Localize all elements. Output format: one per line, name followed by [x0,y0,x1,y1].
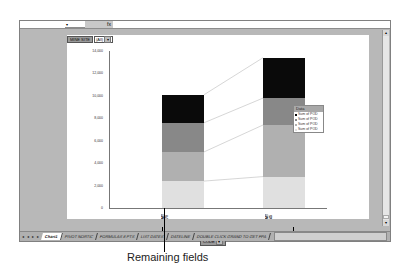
category-label: MT 45 [265,213,273,219]
horizontal-scrollbar[interactable] [274,232,387,241]
y-tick-label: 4,000 [81,161,103,165]
pivot-chart-area[interactable]: MINE SITE (All) ▾ 02,0004,0006,0008,0001… [67,35,369,219]
x-axis [109,208,327,209]
chevron-down-icon[interactable]: ▾ [104,36,111,43]
y-tick-label: 8,000 [81,116,103,120]
sheet-tab[interactable]: FORMULAS 8 PTS [96,233,139,240]
y-tick-label: 12,000 [81,71,103,75]
y-tick-label: 2,000 [81,184,103,188]
sheet-tab[interactable]: DATELINE [167,233,195,240]
sheet-tab[interactable]: DOUBLE CLICK GRAND TO GET FPA [193,233,271,240]
tab-navigation: ◂ ◂ ▸ ▸ [20,234,42,239]
scroll-thumb[interactable] [383,215,389,219]
y-axis [109,51,110,208]
legend-swatch-icon [295,124,297,126]
y-tick-label: 14,000 [81,49,103,53]
excel-window: ▾ fx MINE SITE (All) ▾ 02,0004,0006,0008… [19,20,391,242]
legend-label: Sum of POD [298,127,318,132]
first-sheet-icon[interactable]: ◂ [22,234,24,239]
insert-function-button[interactable]: fx [85,21,113,28]
name-box-dropdown-icon[interactable]: ▾ [64,22,70,27]
bar-segment[interactable] [162,152,204,181]
name-box[interactable] [20,21,65,28]
sheet-tab-bar: ◂ ◂ ▸ ▸ Chart1PIVOT NORTICFORMULAS 8 PTS… [20,231,390,241]
vertical-scrollbar[interactable]: ▴ ▾ [382,30,389,226]
sheet-tab[interactable]: PIVOT NORTIC [61,233,98,240]
callout-line [164,208,165,252]
bar-segment[interactable] [162,181,204,208]
formula-input[interactable] [113,21,390,28]
prev-sheet-icon[interactable]: ◂ [27,234,29,239]
page-field: MINE SITE (All) ▾ [67,36,113,43]
y-tick-label: 6,000 [81,139,103,143]
y-tick-label: 0 [81,206,103,210]
y-tick-label: 10,000 [81,94,103,98]
legend-swatch-icon [295,129,297,131]
category-label: MT 70 [161,213,169,219]
page-field-label[interactable]: MINE SITE [67,36,93,43]
page-field-dropdown[interactable]: (All) ▾ [94,36,113,43]
next-sheet-icon[interactable]: ▸ [32,234,34,239]
bar-segment[interactable] [263,58,305,98]
scroll-down-icon[interactable]: ▾ [383,220,389,226]
scroll-up-icon[interactable]: ▴ [383,30,389,36]
legend-item[interactable]: Sum of POD [294,127,323,132]
sheet-tab[interactable]: Chart1 [41,233,63,240]
legend-swatch-icon [295,119,297,121]
formula-bar: ▾ fx [20,21,390,29]
legend-swatch-icon [295,114,297,116]
page-field-value: (All) [96,37,103,43]
bar-segment[interactable] [162,123,204,152]
bar-segment[interactable] [263,177,305,208]
bar-segment[interactable] [162,95,204,123]
legend: Data Sum of PODSum of PODSum of PODSum o… [293,105,324,133]
last-sheet-icon[interactable]: ▸ [37,234,39,239]
callout-caption: Remaining fields [127,251,208,263]
